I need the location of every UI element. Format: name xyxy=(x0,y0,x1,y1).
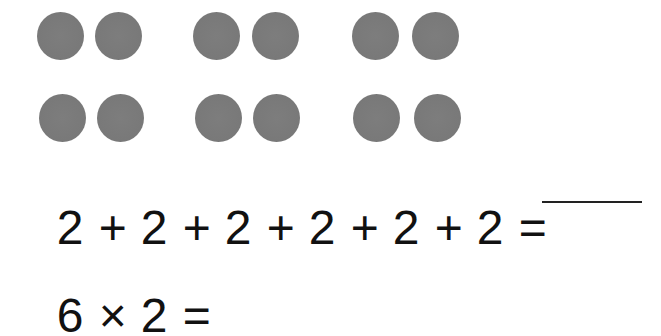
plus-sign: + xyxy=(267,204,309,252)
dot xyxy=(352,12,399,60)
term: 2 xyxy=(393,204,435,252)
equals-sign: = xyxy=(183,292,225,336)
term: 2 xyxy=(225,204,267,252)
dot xyxy=(195,94,242,142)
answer-blank[interactable] xyxy=(542,201,642,203)
dot xyxy=(97,94,144,142)
term: 2 xyxy=(141,292,183,336)
dot xyxy=(414,94,461,142)
dot xyxy=(193,12,240,60)
plus-sign: + xyxy=(435,204,477,252)
dot xyxy=(412,12,459,60)
term: 2 xyxy=(477,204,519,252)
equals-sign: = xyxy=(519,204,561,252)
dot xyxy=(95,12,142,60)
dot xyxy=(252,12,299,60)
dot xyxy=(253,94,300,142)
dot xyxy=(353,94,400,142)
term: 2 xyxy=(309,204,351,252)
dot xyxy=(39,94,86,142)
repeated-addition-equation: 2+2+2+2+2+2= xyxy=(30,156,561,252)
multiplication-equation: 6×2= xyxy=(30,244,225,336)
term: 6 xyxy=(57,292,99,336)
times-sign: × xyxy=(99,292,141,336)
dot xyxy=(37,12,84,60)
plus-sign: + xyxy=(351,204,393,252)
